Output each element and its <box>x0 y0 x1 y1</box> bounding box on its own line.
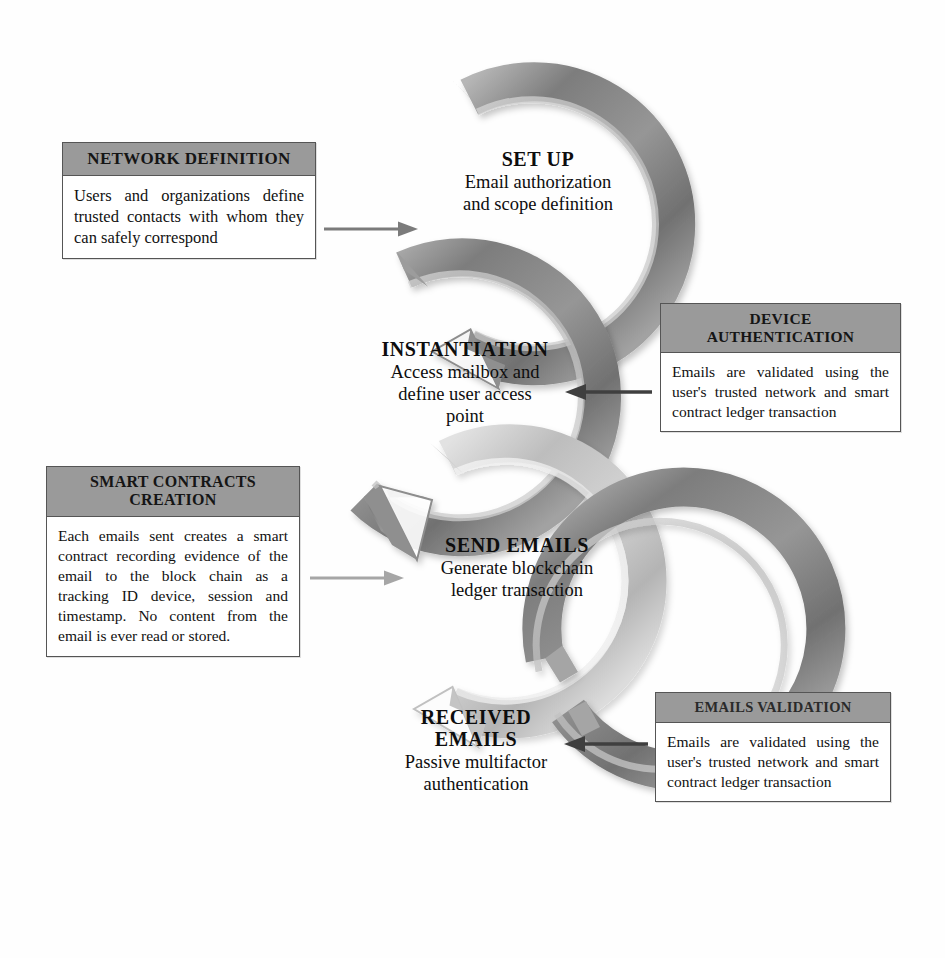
stage-desc-line: ledger transaction <box>372 580 662 602</box>
info-box-header-network-definition: NETWORK DEFINITION <box>63 143 315 176</box>
stage-desc-line: Passive multifactor <box>352 752 600 774</box>
stage-desc-line: and scope definition <box>404 194 672 216</box>
stage-label-send-emails: SEND EMAILS Generate blockchain ledger t… <box>372 534 662 602</box>
info-box-header-device-authentication: DEVICE AUTHENTICATION <box>661 304 900 353</box>
stage-title-received-emails: RECEIVED EMAILS <box>352 706 600 750</box>
info-box-body-network-definition: Users and organizations define trusted c… <box>63 176 315 258</box>
info-box-header-line: DEVICE <box>665 310 896 328</box>
info-box-body-device-authentication: Emails are validated using the user's tr… <box>661 353 900 431</box>
stage-desc-line: point <box>322 406 608 428</box>
stage-desc-send-emails: Generate blockchain ledger transaction <box>372 558 662 602</box>
stage-desc-line: Access mailbox and <box>322 362 608 384</box>
stage-title-line: EMAILS <box>352 728 600 750</box>
stage-desc-line: authentication <box>352 774 600 796</box>
stage-desc-set-up: Email authorization and scope definition <box>404 172 672 216</box>
info-box-smart-contracts-creation: SMART CONTRACTS CREATION Each emails sen… <box>46 466 300 657</box>
connector-network-to-setup <box>324 222 418 237</box>
stage-title-send-emails: SEND EMAILS <box>372 534 662 556</box>
info-box-header-line: SMART CONTRACTS <box>51 473 295 491</box>
diagram-canvas: SET UP Email authorization and scope def… <box>0 0 945 958</box>
info-box-header-smart-contracts-creation: SMART CONTRACTS CREATION <box>47 467 299 517</box>
stage-title-set-up: SET UP <box>404 148 672 170</box>
stage-desc-line: Email authorization <box>404 172 672 194</box>
info-box-body-emails-validation: Emails are validated using the user's tr… <box>656 723 890 801</box>
info-box-emails-validation: EMAILS VALIDATION Emails are validated u… <box>655 692 891 802</box>
info-box-header-line: CREATION <box>51 491 295 509</box>
stage-desc-received-emails: Passive multifactor authentication <box>352 752 600 796</box>
stage-desc-line: Generate blockchain <box>372 558 662 580</box>
info-box-body-smart-contracts-creation: Each emails sent creates a smart contrac… <box>47 517 299 656</box>
stage-desc-line: define user access <box>322 384 608 406</box>
info-box-header-emails-validation: EMAILS VALIDATION <box>656 693 890 723</box>
info-box-device-authentication: DEVICE AUTHENTICATION Emails are validat… <box>660 303 901 432</box>
stage-title-line: RECEIVED <box>352 706 600 728</box>
info-box-network-definition: NETWORK DEFINITION Users and organizatio… <box>62 142 316 259</box>
stage-label-received-emails: RECEIVED EMAILS Passive multifactor auth… <box>352 706 600 796</box>
stage-label-instantiation: INSTANTIATION Access mailbox and define … <box>322 338 608 427</box>
stage-title-instantiation: INSTANTIATION <box>322 338 608 360</box>
info-box-header-line: AUTHENTICATION <box>665 328 896 346</box>
stage-label-set-up: SET UP Email authorization and scope def… <box>404 148 672 216</box>
stage-desc-instantiation: Access mailbox and define user access po… <box>322 362 608 427</box>
